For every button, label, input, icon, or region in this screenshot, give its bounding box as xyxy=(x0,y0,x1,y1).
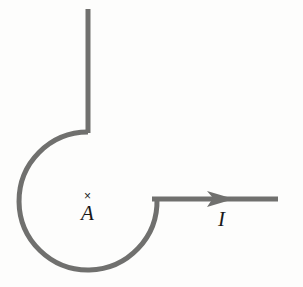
diagram-canvas: × A I xyxy=(0,0,303,287)
wire-diagram-svg xyxy=(0,0,303,287)
field-point-label: A xyxy=(81,203,94,224)
current-label: I xyxy=(218,209,225,230)
